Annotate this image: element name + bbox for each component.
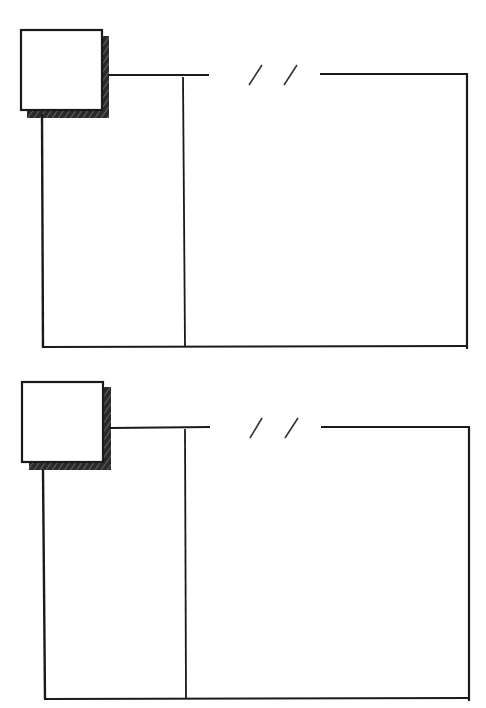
entry-number-box[interactable] xyxy=(22,31,101,109)
left-column-area[interactable] xyxy=(44,118,182,346)
entry-number-box[interactable] xyxy=(23,383,102,461)
right-column-area[interactable] xyxy=(188,429,468,698)
right-column-area[interactable] xyxy=(186,76,466,346)
journal-entry-panel-2: / / xyxy=(0,352,486,704)
journal-entry-panel-1: / / xyxy=(0,0,486,352)
left-column-area[interactable] xyxy=(46,470,184,698)
